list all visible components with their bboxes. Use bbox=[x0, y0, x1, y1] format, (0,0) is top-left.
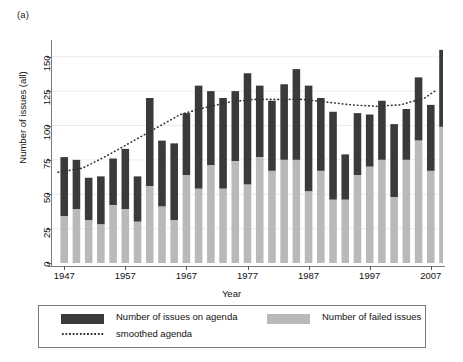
bar-group bbox=[256, 86, 264, 263]
bar-group bbox=[341, 154, 349, 263]
x-tick-mark bbox=[248, 266, 249, 270]
chart-canvas bbox=[52, 43, 443, 263]
bar-group bbox=[390, 124, 398, 263]
x-tick-mark bbox=[309, 266, 310, 270]
x-tick-label: 1997 bbox=[350, 270, 390, 281]
bar-group bbox=[60, 157, 68, 263]
x-tick-mark bbox=[125, 266, 126, 270]
chart-legend: Number of issues on agenda Number of fai… bbox=[38, 305, 426, 348]
bar-group bbox=[354, 113, 362, 263]
bar-group bbox=[158, 141, 166, 263]
legend-label-smoothed: smoothed agenda bbox=[116, 328, 192, 339]
bar-group bbox=[170, 143, 178, 263]
bar-group bbox=[439, 50, 443, 263]
bar-group bbox=[207, 91, 215, 263]
bar-group bbox=[183, 113, 191, 263]
x-tick-mark bbox=[64, 266, 65, 270]
bar-group bbox=[134, 176, 142, 263]
bar-group bbox=[231, 91, 239, 263]
legend-label-agenda: Number of issues on agenda bbox=[116, 311, 237, 322]
bar-group bbox=[378, 101, 386, 263]
bar-group bbox=[268, 101, 276, 263]
bar-group bbox=[403, 109, 411, 263]
bar-group bbox=[73, 160, 81, 263]
x-tick-label: 1977 bbox=[228, 270, 268, 281]
legend-label-failed: Number of failed issues bbox=[322, 311, 421, 322]
legend-swatch-smoothed bbox=[61, 333, 104, 335]
bar-group bbox=[415, 77, 423, 263]
legend-swatch-agenda bbox=[61, 314, 104, 324]
y-tick-label: 150 bbox=[41, 55, 52, 101]
bar-group bbox=[329, 112, 337, 263]
bar-group bbox=[317, 98, 325, 263]
x-tick-mark bbox=[370, 266, 371, 270]
y-tick-mark bbox=[47, 57, 51, 58]
plot-area bbox=[52, 43, 443, 263]
figure-panel-a: (a) Number of issues (all) Year 02550751… bbox=[0, 0, 463, 362]
legend-swatch-failed bbox=[267, 314, 310, 324]
x-axis-title: Year bbox=[0, 288, 463, 299]
x-tick-label: 1957 bbox=[105, 270, 145, 281]
bar-group bbox=[244, 73, 252, 263]
panel-tag: (a) bbox=[17, 9, 29, 20]
bar-group bbox=[97, 176, 105, 263]
bar-group bbox=[195, 86, 203, 263]
x-tick-mark bbox=[186, 266, 187, 270]
bar-group bbox=[293, 69, 301, 263]
x-tick-label: 1947 bbox=[44, 270, 84, 281]
x-axis-line bbox=[48, 266, 445, 267]
bar-group bbox=[146, 98, 154, 263]
y-axis-title: Number of issues (all) bbox=[17, 28, 28, 208]
bar-group bbox=[122, 149, 130, 263]
bar-group bbox=[109, 159, 117, 264]
bar-group bbox=[85, 178, 93, 263]
bar-group bbox=[305, 86, 313, 263]
x-tick-label: 1967 bbox=[166, 270, 206, 281]
bar-group bbox=[366, 115, 374, 264]
x-tick-label: 2007 bbox=[411, 270, 451, 281]
x-tick-mark bbox=[431, 266, 432, 270]
bar-group bbox=[219, 98, 227, 263]
bar-group bbox=[427, 105, 435, 263]
x-tick-label: 1987 bbox=[289, 270, 329, 281]
bar-group bbox=[280, 84, 288, 263]
